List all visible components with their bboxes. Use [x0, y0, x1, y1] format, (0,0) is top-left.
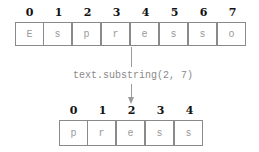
- index-label: 0: [59, 104, 88, 117]
- operation-label: text.substring(2, 7): [73, 70, 193, 81]
- char-box: s: [145, 120, 174, 146]
- index-label: 6: [189, 6, 218, 19]
- index-label: 1: [44, 6, 73, 19]
- index-label: 2: [73, 6, 102, 19]
- char-box: p: [72, 22, 101, 46]
- arrow-down-icon: [128, 97, 134, 104]
- char-box: s: [188, 22, 217, 46]
- char-box: s: [43, 22, 72, 46]
- char-box: s: [174, 120, 203, 146]
- index-label: 7: [218, 6, 247, 19]
- index-label: 5: [160, 6, 189, 19]
- index-label: 2: [117, 104, 146, 117]
- char-box: s: [159, 22, 188, 46]
- connector-line-top: [131, 47, 132, 67]
- char-box: p: [59, 120, 88, 146]
- char-box: e: [130, 22, 159, 46]
- index-label: 1: [88, 104, 117, 117]
- char-box: e: [116, 120, 145, 146]
- char-box: r: [87, 120, 116, 146]
- char-box: o: [217, 22, 246, 46]
- char-box: E: [15, 22, 44, 46]
- index-label: 0: [15, 6, 44, 19]
- index-label: 4: [175, 104, 204, 117]
- index-label: 3: [146, 104, 175, 117]
- index-label: 4: [131, 6, 160, 19]
- index-label: 3: [102, 6, 131, 19]
- connector-line-bottom: [131, 84, 132, 98]
- char-box: r: [101, 22, 130, 46]
